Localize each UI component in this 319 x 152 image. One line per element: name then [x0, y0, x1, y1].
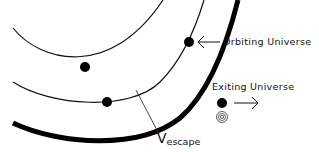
- velocity-symbol: V: [157, 130, 167, 146]
- inner-orbit-arc: [13, 0, 163, 57]
- escape-velocity-line: [136, 90, 159, 134]
- middle-orbit-dot: [102, 97, 112, 107]
- orbiting-universe-dot: [184, 37, 194, 47]
- velocity-subscript: escape: [167, 136, 201, 147]
- arrow-left-icon: [198, 36, 220, 48]
- escape-velocity-label: Vescape: [157, 130, 200, 147]
- concentric-rings-icon: [217, 112, 228, 123]
- orbiting-universe-label: Orbiting Universe: [223, 36, 311, 47]
- middle-orbit-arc: [13, 0, 204, 102]
- exiting-universe-label: Exiting Universe: [212, 81, 294, 92]
- exiting-universe-dot: [217, 98, 227, 108]
- inner-orbit-dot: [80, 62, 90, 72]
- orbit-diagram: Orbiting Universe Exiting Universe Vesca…: [0, 0, 319, 152]
- universe-boundary-arc: [13, 0, 238, 141]
- arrow-right-icon: [234, 97, 258, 109]
